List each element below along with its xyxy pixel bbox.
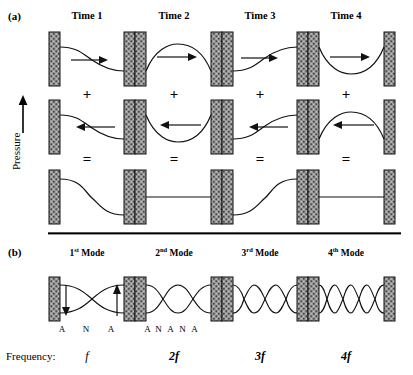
tube-walls-t4-row2 bbox=[308, 100, 395, 154]
frequency-value-mode-2: 2f bbox=[136, 349, 212, 364]
mode-4-diagram bbox=[308, 277, 395, 321]
operator-equals-t3: = bbox=[222, 152, 298, 167]
wave-curve-t4-right bbox=[319, 47, 384, 74]
mode-2-diagram bbox=[135, 277, 222, 321]
operator-equals-t1: = bbox=[49, 152, 125, 167]
column-title-time-4: Time 4 bbox=[308, 10, 384, 21]
right-arrow-icon-t2 bbox=[157, 53, 197, 61]
tube-walls-t4 bbox=[308, 32, 395, 86]
mode-title-4: 4th Mode bbox=[305, 246, 387, 258]
column-title-time-3: Time 3 bbox=[222, 10, 298, 21]
panel-a-row-superposition bbox=[45, 168, 408, 226]
operator-equals-t2: = bbox=[136, 152, 212, 167]
panel-b-label: (b) bbox=[8, 246, 21, 258]
right-arrow-icon-t4 bbox=[330, 53, 370, 61]
mode2-label-A-3: A bbox=[189, 324, 200, 334]
panel-divider bbox=[48, 232, 401, 235]
mode-2-word: Mode bbox=[170, 248, 193, 258]
mode-4-suffix: th bbox=[333, 246, 339, 253]
right-arrow-icon-t3 bbox=[241, 54, 278, 62]
mode-1-diagram bbox=[49, 277, 135, 321]
mode-1-word: Mode bbox=[81, 248, 104, 258]
mode-4-word: Mode bbox=[341, 248, 364, 258]
mode-3-suffix: rd bbox=[246, 246, 253, 253]
up-arrow-icon bbox=[16, 95, 30, 133]
mode2-label-A-2: A bbox=[165, 324, 176, 334]
down-arrow-icon-mode1 bbox=[62, 285, 70, 316]
frequency-value-mode-1: f bbox=[49, 349, 125, 364]
mode-3-diagram bbox=[222, 277, 308, 321]
wave-curve-t2-left bbox=[146, 115, 211, 142]
column-title-time-2: Time 2 bbox=[136, 10, 212, 21]
frequency-value-mode-3: 3f bbox=[222, 349, 298, 364]
operator-equals-t4: = bbox=[308, 152, 384, 167]
mode2-label-A-1: A bbox=[142, 324, 153, 334]
wave-curve-result-t1 bbox=[60, 179, 124, 215]
panel-a-label: (a) bbox=[8, 10, 21, 22]
mode2-label-N-2: N bbox=[177, 324, 188, 334]
tube-walls-t3-row3 bbox=[222, 170, 308, 224]
tube-walls-t3 bbox=[222, 32, 308, 86]
wave-curve-result-t3 bbox=[233, 179, 297, 215]
panel-a-row-leftward-waves bbox=[45, 98, 408, 156]
right-arrow-icon-t1 bbox=[71, 56, 108, 64]
wave-curve-t3-right bbox=[233, 47, 297, 71]
panel-a-row-rightward-waves bbox=[45, 30, 408, 88]
mode1-label-A-left: A bbox=[56, 324, 68, 334]
mode-title-2: 2nd Mode bbox=[133, 246, 215, 258]
mode-3-word: Mode bbox=[255, 248, 278, 258]
tube-walls-t1-row3 bbox=[49, 170, 135, 224]
panel-b-mode-diagrams bbox=[45, 275, 408, 327]
mode1-label-N: N bbox=[80, 324, 92, 334]
y-axis-label-pressure: Pressure bbox=[10, 133, 22, 170]
up-arrow-icon-mode1 bbox=[113, 284, 121, 316]
frequency-value-mode-4: 4f bbox=[308, 349, 384, 364]
mode1-label-A-right: A bbox=[105, 324, 117, 334]
tube-walls-t2 bbox=[135, 32, 222, 86]
left-arrow-icon-t4 bbox=[333, 121, 374, 129]
mode-title-1: 1st Mode bbox=[46, 246, 128, 258]
left-arrow-icon-t2 bbox=[160, 121, 201, 129]
mode2-label-N-1: N bbox=[153, 324, 164, 334]
mode-title-3: 3rd Mode bbox=[219, 246, 301, 258]
figure-standing-waves-in-tube: (a) Time 1 Time 2 Time 3 Time 4 Pressure bbox=[0, 0, 413, 375]
mode-1-suffix: st bbox=[74, 246, 79, 253]
tube-walls-t1 bbox=[49, 32, 135, 86]
wave-curve-t1-right bbox=[60, 47, 124, 71]
mode-2-suffix: nd bbox=[160, 246, 167, 253]
tube-walls-t2-row2 bbox=[135, 100, 222, 154]
column-title-time-1: Time 1 bbox=[49, 10, 125, 21]
